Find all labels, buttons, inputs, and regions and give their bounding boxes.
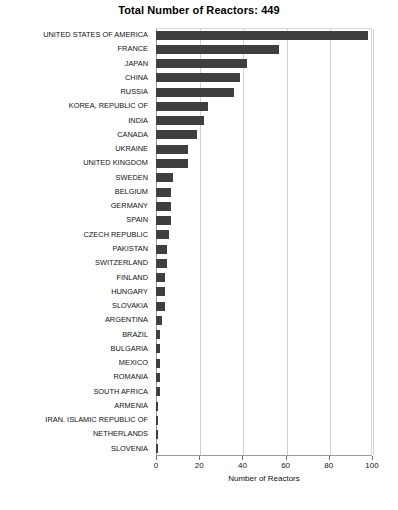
- category-label: GERMANY: [0, 199, 152, 213]
- bar-row[interactable]: [156, 256, 372, 270]
- category-label: HUNGARY: [0, 285, 152, 299]
- bar-row[interactable]: [156, 142, 372, 156]
- bar-row[interactable]: [156, 385, 372, 399]
- bar[interactable]: [156, 102, 208, 111]
- bar[interactable]: [156, 188, 171, 197]
- bar-row[interactable]: [156, 42, 372, 56]
- bar[interactable]: [156, 73, 240, 82]
- bar[interactable]: [156, 430, 158, 439]
- bar-row[interactable]: [156, 442, 372, 456]
- category-label: BRAZIL: [0, 328, 152, 342]
- bar[interactable]: [156, 173, 173, 182]
- category-label: UNITED STATES OF AMERICA: [0, 28, 152, 42]
- bar[interactable]: [156, 159, 188, 168]
- bar[interactable]: [156, 330, 160, 339]
- bar[interactable]: [156, 245, 167, 254]
- category-label: CANADA: [0, 128, 152, 142]
- bar[interactable]: [156, 387, 160, 396]
- tick-mark-0: [156, 456, 157, 460]
- bar[interactable]: [156, 344, 160, 353]
- bar-row[interactable]: [156, 156, 372, 170]
- bar[interactable]: [156, 31, 368, 40]
- bar-row[interactable]: [156, 328, 372, 342]
- bar[interactable]: [156, 402, 158, 411]
- tick-mark-60: [286, 456, 287, 460]
- bar-row[interactable]: [156, 242, 372, 256]
- category-label: SWITZERLAND: [0, 256, 152, 270]
- category-label: RUSSIA: [0, 85, 152, 99]
- bar[interactable]: [156, 416, 158, 425]
- bar-row[interactable]: [156, 413, 372, 427]
- category-label: MEXICO: [0, 356, 152, 370]
- category-label: CZECH REPUBLIC: [0, 228, 152, 242]
- bar[interactable]: [156, 45, 279, 54]
- category-label: ARGENTINA: [0, 313, 152, 327]
- category-label: PAKISTAN: [0, 242, 152, 256]
- bar-row[interactable]: [156, 99, 372, 113]
- category-label: CHINA: [0, 71, 152, 85]
- tick-label-0: 0: [136, 461, 176, 470]
- category-label: JAPAN: [0, 57, 152, 71]
- bar-row[interactable]: [156, 57, 372, 71]
- bar-row[interactable]: [156, 427, 372, 441]
- category-label: BELGIUM: [0, 185, 152, 199]
- bar-row[interactable]: [156, 342, 372, 356]
- category-label: UKRAINE: [0, 142, 152, 156]
- category-label: SLOVENIA: [0, 442, 152, 456]
- tick-mark-100: [372, 456, 373, 460]
- bar-row[interactable]: [156, 356, 372, 370]
- category-label: IRAN. ISLAMIC REPUBLIC OF: [0, 413, 152, 427]
- bar[interactable]: [156, 130, 197, 139]
- category-label: INDIA: [0, 114, 152, 128]
- bar[interactable]: [156, 359, 160, 368]
- bar[interactable]: [156, 444, 158, 453]
- bar-row[interactable]: [156, 199, 372, 213]
- bar[interactable]: [156, 259, 167, 268]
- category-label: BULGARIA: [0, 342, 152, 356]
- category-label: SOUTH AFRICA: [0, 385, 152, 399]
- bar-row[interactable]: [156, 299, 372, 313]
- bar-row[interactable]: [156, 28, 372, 42]
- x-axis-label: Number of Reactors: [156, 474, 372, 483]
- category-label: SPAIN: [0, 213, 152, 227]
- bar-chart: Total Number of Reactors: 449 UNITED STA…: [0, 0, 398, 510]
- bar-row[interactable]: [156, 213, 372, 227]
- bar[interactable]: [156, 287, 165, 296]
- bar-row[interactable]: [156, 185, 372, 199]
- bar-row[interactable]: [156, 271, 372, 285]
- bar[interactable]: [156, 302, 165, 311]
- tick-label-100: 100: [352, 461, 392, 470]
- category-label: SLOVAKIA: [0, 299, 152, 313]
- tick-label-40: 40: [222, 461, 262, 470]
- bar-row[interactable]: [156, 370, 372, 384]
- bar-row[interactable]: [156, 228, 372, 242]
- bar-row[interactable]: [156, 71, 372, 85]
- bar[interactable]: [156, 273, 165, 282]
- category-label: ARMENIA: [0, 399, 152, 413]
- bar-row[interactable]: [156, 313, 372, 327]
- bar-row[interactable]: [156, 85, 372, 99]
- bars-layer: [156, 28, 372, 456]
- bar-row[interactable]: [156, 285, 372, 299]
- bar[interactable]: [156, 316, 162, 325]
- category-label: NETHERLANDS: [0, 427, 152, 441]
- bar[interactable]: [156, 373, 160, 382]
- tick-mark-80: [329, 456, 330, 460]
- category-label: SWEDEN: [0, 171, 152, 185]
- tick-mark-20: [199, 456, 200, 460]
- category-labels: UNITED STATES OF AMERICAFRANCEJAPANCHINA…: [0, 28, 152, 456]
- tick-label-80: 80: [309, 461, 349, 470]
- bar-row[interactable]: [156, 128, 372, 142]
- bar[interactable]: [156, 202, 171, 211]
- category-label: FINLAND: [0, 271, 152, 285]
- bar[interactable]: [156, 216, 171, 225]
- bar[interactable]: [156, 145, 188, 154]
- bar[interactable]: [156, 59, 247, 68]
- bar-row[interactable]: [156, 399, 372, 413]
- chart-title: Total Number of Reactors: 449: [0, 4, 398, 16]
- bar-row[interactable]: [156, 114, 372, 128]
- bar[interactable]: [156, 88, 234, 97]
- bar-row[interactable]: [156, 171, 372, 185]
- bar[interactable]: [156, 116, 204, 125]
- bar[interactable]: [156, 230, 169, 239]
